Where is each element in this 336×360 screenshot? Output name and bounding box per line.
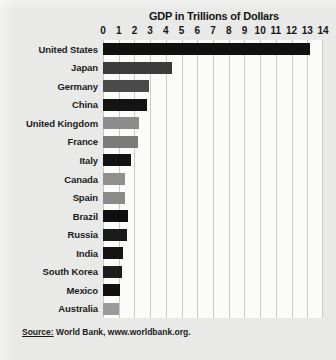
bar-australia — [103, 303, 119, 315]
category-label-united-kingdom: United Kingdom — [0, 118, 98, 129]
x-tick-label-12: 12 — [286, 25, 297, 36]
bar-row — [103, 170, 323, 189]
category-label-russia: Russia — [0, 229, 98, 240]
bar-row — [103, 133, 323, 152]
x-tick-label-2: 2 — [132, 25, 138, 36]
category-label-france: France — [0, 136, 98, 147]
bar-row — [103, 151, 323, 170]
chart-figure: GDP in Trillions of Dollars 012345678910… — [0, 0, 336, 360]
bar-germany — [103, 80, 149, 92]
source-note: Source: World Bank, www.worldbank.org. — [22, 327, 191, 337]
x-tick-label-13: 13 — [302, 25, 313, 36]
plot-area — [103, 40, 323, 318]
category-label-united-states: United States — [0, 44, 98, 55]
x-tick-label-0: 0 — [100, 25, 106, 36]
chart-title: GDP in Trillions of Dollars — [103, 10, 325, 22]
category-label-germany: Germany — [0, 81, 98, 92]
category-label-china: China — [0, 99, 98, 110]
bar-france — [103, 136, 138, 148]
x-tick-label-11: 11 — [271, 25, 282, 36]
x-tick-label-14: 14 — [317, 25, 328, 36]
bar-row — [103, 299, 323, 318]
x-tick-label-6: 6 — [195, 25, 201, 36]
source-text: World Bank, www.worldbank.org. — [54, 327, 191, 337]
bar-series — [103, 40, 323, 318]
bar-row — [103, 77, 323, 96]
bar-row — [103, 188, 323, 207]
y-axis-category-labels: United StatesJapanGermanyChinaUnited Kin… — [0, 40, 98, 318]
bar-italy — [103, 154, 131, 166]
category-label-canada: Canada — [0, 174, 98, 185]
bar-united-states — [103, 43, 310, 55]
bar-mexico — [103, 284, 120, 296]
bar-china — [103, 99, 147, 111]
bar-row — [103, 114, 323, 133]
x-tick-label-7: 7 — [210, 25, 216, 36]
category-label-australia: Australia — [0, 303, 98, 314]
x-tick-label-3: 3 — [147, 25, 153, 36]
bar-south-korea — [103, 266, 122, 278]
bar-india — [103, 247, 123, 259]
bar-row — [103, 59, 323, 78]
bar-row — [103, 225, 323, 244]
x-tick-label-9: 9 — [242, 25, 248, 36]
x-tick-label-10: 10 — [255, 25, 266, 36]
source-label: Source: — [22, 327, 54, 337]
category-label-south-korea: South Korea — [0, 266, 98, 277]
x-tick-label-5: 5 — [179, 25, 185, 36]
bar-canada — [103, 173, 125, 185]
category-label-spain: Spain — [0, 192, 98, 203]
bar-spain — [103, 192, 125, 204]
category-label-india: India — [0, 248, 98, 259]
x-axis-tick-labels: 01234567891011121314 — [103, 25, 323, 38]
x-tick-label-1: 1 — [116, 25, 122, 36]
x-tick-label-4: 4 — [163, 25, 169, 36]
bar-russia — [103, 229, 127, 241]
bar-row — [103, 207, 323, 226]
x-tick-label-8: 8 — [226, 25, 232, 36]
bar-united-kingdom — [103, 117, 139, 129]
bar-row — [103, 96, 323, 115]
category-label-italy: Italy — [0, 155, 98, 166]
bar-row — [103, 244, 323, 263]
category-label-brazil: Brazil — [0, 211, 98, 222]
category-label-mexico: Mexico — [0, 285, 98, 296]
bar-brazil — [103, 210, 128, 222]
category-label-japan: Japan — [0, 62, 98, 73]
bar-row — [103, 40, 323, 59]
bar-row — [103, 262, 323, 281]
bar-row — [103, 281, 323, 300]
bar-japan — [103, 62, 172, 74]
